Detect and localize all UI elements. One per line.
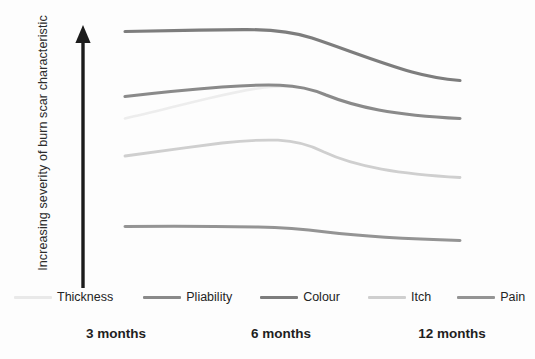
legend-label: Thickness [57,290,113,304]
legend-swatch-thickness-icon [14,296,52,299]
plot-area [0,0,535,285]
x-tick-label: 12 months [418,326,486,341]
legend-swatch-pain-icon [457,296,495,299]
series-line-pain [125,226,460,240]
series-line-itch [125,140,460,177]
chart-figure: Increasing severity of burn scar charact… [0,0,535,359]
legend-item-pain[interactable]: Pain [457,290,525,304]
legend-label: Itch [411,290,431,304]
legend-item-colour[interactable]: Colour [260,290,340,304]
series-line-pliability [125,85,460,118]
x-tick-label: 6 months [251,326,311,341]
legend-label: Pliability [186,290,232,304]
legend-swatch-pliability-icon [143,296,181,299]
legend-swatch-colour-icon [260,296,298,299]
legend-item-pliability[interactable]: Pliability [143,290,232,304]
legend-label: Pain [500,290,525,304]
legend-label: Colour [303,290,340,304]
legend-swatch-itch-icon [368,296,406,299]
legend-item-itch[interactable]: Itch [368,290,431,304]
x-axis-tick-labels: 3 months6 months12 months [0,326,535,354]
series-line-thickness [125,86,300,118]
chart-legend: ThicknessPliabilityColourItchPain [14,286,529,308]
x-tick-label: 3 months [86,326,146,341]
series-line-colour [125,30,460,81]
legend-item-thickness[interactable]: Thickness [14,290,113,304]
